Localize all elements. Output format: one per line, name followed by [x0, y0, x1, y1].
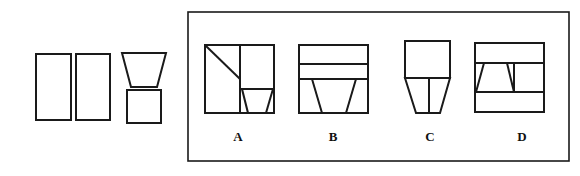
question-pieces [36, 53, 166, 123]
figure-puzzle: A B C D [0, 0, 580, 176]
option-a-label: A [233, 129, 242, 145]
puzzle-canvas [0, 0, 580, 176]
option-b-figure[interactable] [299, 45, 368, 113]
option-c-figure[interactable] [405, 41, 450, 113]
option-c-label: C [425, 129, 434, 145]
small-square [127, 90, 161, 123]
option-d-figure[interactable] [475, 43, 544, 112]
tall-rectangle-2 [76, 54, 110, 120]
inverted-trapezoid [122, 53, 166, 87]
option-b-label: B [329, 129, 338, 145]
option-d-label: D [517, 129, 526, 145]
tall-rectangle-1 [36, 54, 71, 120]
option-a-figure[interactable] [205, 45, 274, 113]
